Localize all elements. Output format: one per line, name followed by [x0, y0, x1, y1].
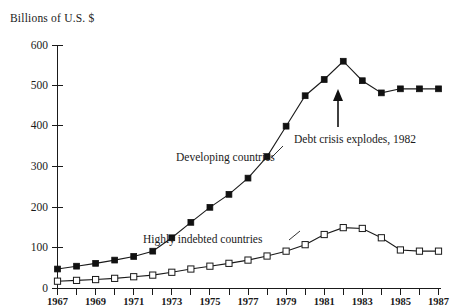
data-point — [112, 275, 118, 281]
debt-crisis-annotation-label: Debt crisis explodes, 1982 — [294, 133, 416, 146]
data-point — [359, 78, 365, 84]
data-point — [73, 277, 79, 283]
xtick-label: 1983 — [352, 296, 373, 307]
ytick-label: 500 — [31, 79, 49, 91]
data-point — [417, 86, 423, 92]
ytick-label: 0 — [42, 282, 48, 294]
data-point — [131, 274, 137, 280]
data-point — [245, 175, 251, 181]
data-point — [283, 248, 289, 254]
developing-countries-label: Developing countries — [176, 151, 275, 164]
data-point — [207, 204, 213, 210]
data-point — [150, 248, 156, 254]
ytick-label: 300 — [31, 160, 49, 172]
chart-page: Billions of U.S. $ 600 500 400 300 200 1… — [0, 0, 459, 308]
xtick-label: 1977 — [238, 296, 259, 307]
chart-series-layer — [54, 58, 441, 284]
data-point — [131, 254, 137, 260]
data-point — [207, 263, 213, 269]
data-point — [321, 77, 327, 83]
xtick-label: 1981 — [314, 296, 335, 307]
data-point — [359, 225, 365, 231]
highly-indebted-countries-leader — [289, 231, 300, 240]
data-point — [169, 269, 175, 275]
data-point — [112, 257, 118, 263]
data-point — [378, 90, 384, 96]
ytick-label: 100 — [31, 241, 49, 253]
data-point — [321, 231, 327, 237]
highly-indebted-countries-label: Highly indebted countries — [143, 233, 263, 246]
data-point — [150, 272, 156, 278]
data-point — [93, 276, 99, 282]
ytick-label: 600 — [31, 39, 49, 51]
data-point — [245, 257, 251, 263]
data-point — [283, 123, 289, 129]
data-point — [264, 253, 270, 259]
data-point — [55, 266, 61, 272]
xtick-label: 1973 — [161, 296, 182, 307]
data-point — [397, 247, 403, 253]
data-point — [398, 86, 404, 92]
xtick-label: 1987 — [428, 296, 449, 307]
data-point — [93, 260, 99, 266]
data-point — [302, 242, 308, 248]
ytick-label: 200 — [31, 201, 49, 213]
data-point — [226, 191, 232, 197]
xtick-label: 1969 — [85, 296, 106, 307]
data-point — [340, 58, 346, 64]
y-axis-tick-labels: 600 500 400 300 200 100 0 — [31, 39, 49, 294]
data-point — [188, 219, 194, 225]
data-point — [416, 248, 422, 254]
xtick-label: 1975 — [199, 296, 220, 307]
data-point — [226, 260, 232, 266]
xtick-label: 1985 — [390, 296, 411, 307]
data-point — [340, 225, 346, 231]
data-point — [378, 235, 384, 241]
data-point — [436, 86, 442, 92]
data-point — [74, 263, 80, 269]
chart-plot-area: 600 500 400 300 200 100 0 — [0, 0, 459, 308]
data-point — [54, 278, 60, 284]
data-point — [302, 93, 308, 99]
x-axis-tick-labels: 1967 1969 1971 1973 1975 1977 1979 1981 … — [47, 296, 449, 307]
x-axis-ticks — [58, 289, 439, 296]
xtick-label: 1971 — [123, 296, 144, 307]
ytick-label: 400 — [31, 119, 49, 131]
data-point — [188, 266, 194, 272]
debt-crisis-annotation-arrow — [333, 89, 343, 127]
xtick-label: 1967 — [47, 296, 68, 307]
data-point — [435, 248, 441, 254]
xtick-label: 1979 — [276, 296, 297, 307]
